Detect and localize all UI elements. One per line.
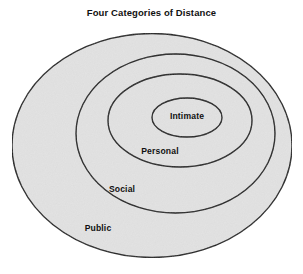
ring-label-intimate: Intimate (170, 111, 204, 121)
ring-label-social: Social (109, 184, 135, 194)
ring-label-personal: Personal (141, 146, 179, 156)
nested-ellipse-diagram: Intimate Personal Social Public (0, 0, 303, 274)
distance-categories-figure: Four Categories of Distance Intimate Per… (0, 0, 303, 274)
ring-label-public: Public (85, 223, 112, 233)
